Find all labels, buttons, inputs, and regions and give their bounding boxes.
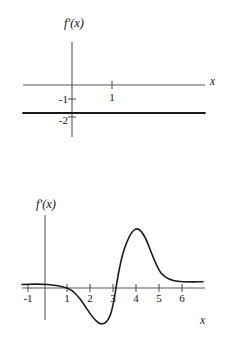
figure-bottom-oscillating-derivative: f'(x) x -1 1 2 3 4 5 6 — [0, 180, 225, 361]
bottom-chart-svg: f'(x) x -1 1 2 3 4 5 6 — [0, 180, 225, 361]
top-x-tick-label-1: 1 — [109, 91, 115, 103]
bottom-function-label: f'(x) — [36, 197, 56, 211]
top-y-tick-label-minus2: -2 — [59, 114, 68, 126]
top-chart-svg: f'(x) x 1 -1 -2 — [0, 0, 225, 180]
top-y-tick-label-minus1: -1 — [59, 93, 68, 105]
bottom-x-tick-label-minus1: -1 — [23, 292, 32, 304]
bottom-derivative-curve — [22, 229, 203, 324]
bottom-x-axis-label: x — [199, 314, 206, 326]
bottom-x-tick-label-2: 2 — [87, 292, 93, 304]
bottom-x-tick-label-1: 1 — [64, 292, 70, 304]
bottom-x-tick-label-5: 5 — [156, 292, 162, 304]
bottom-x-tick-label-3: 3 — [110, 292, 116, 304]
top-x-axis-label: x — [209, 75, 216, 87]
bottom-x-tick-label-4: 4 — [133, 292, 139, 304]
top-function-label: f'(x) — [64, 16, 84, 30]
figure-top-constant-derivative: f'(x) x 1 -1 -2 — [0, 0, 225, 180]
bottom-x-tick-label-6: 6 — [179, 292, 185, 304]
